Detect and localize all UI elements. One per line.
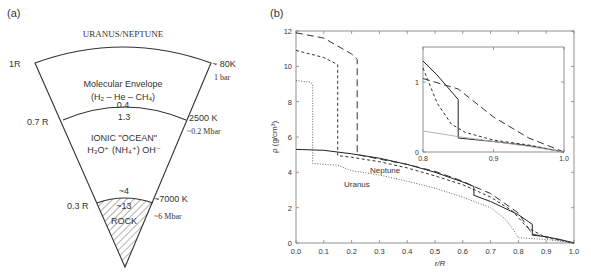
y-tick-label: 10 [284, 62, 292, 71]
radius-label-0-7R: 0.7 R [27, 117, 49, 127]
density-rock-top: ~13 [116, 201, 131, 211]
panel-a-planet-interior-diagram: (a) URANUS/NEPTUNE 1R 0.7 R 0.3 R Molecu… [7, 7, 236, 267]
pressure-0-3R: ~6 Mbar [154, 212, 182, 221]
pressure-surface: 1 bar [214, 73, 231, 82]
radius-label-0-3R: 0.3 R [67, 201, 89, 211]
x-tick-label: 0.9 [489, 155, 499, 162]
x-tick-label: 0.5 [430, 247, 440, 256]
layer-molecular-envelope: Molecular Envelope [83, 79, 162, 89]
pressure-0-7R: ~0.2 Mbar [187, 127, 221, 136]
y-tick-label: 6 [288, 133, 292, 142]
x-tick-label: 0.9 [541, 247, 551, 256]
x-tick-label: 0.3 [374, 247, 384, 256]
y-tick-label: 0 [288, 239, 292, 248]
layer-rock: ROCK [111, 216, 137, 226]
layer-ionic-composition: H₃O⁺ (NH₄⁺) OH⁻ [87, 145, 160, 155]
temperature-0-7R: 2500 K [189, 113, 218, 123]
panel-a-label: (a) [7, 7, 20, 19]
x-axis-label: r/R [435, 259, 446, 268]
y-tick-label: 2 [288, 204, 292, 213]
temperature-0-3R: ~7000 K [154, 194, 188, 204]
x-tick-label: 1.0 [569, 247, 579, 256]
radius-label-1R: 1R [9, 59, 21, 69]
x-tick-label: 0.8 [418, 155, 428, 162]
y-tick-label: 0 [415, 149, 419, 156]
y-tick-label: 8 [288, 98, 292, 107]
x-tick-label: 0.4 [402, 247, 412, 256]
x-tick-label: 0.6 [458, 247, 468, 256]
x-tick-label: 0.0 [291, 247, 301, 256]
x-tick-label: 0.1 [319, 247, 329, 256]
figure: (a) URANUS/NEPTUNE 1R 0.7 R 0.3 R Molecu… [0, 0, 591, 275]
x-tick-label: 1.0 [559, 155, 569, 162]
y-tick-label: 1 [415, 79, 419, 86]
layer-ionic-ocean: IONIC "OCEAN" [91, 133, 157, 143]
inset-plot-frame [423, 47, 564, 152]
x-tick-label: 0.2 [346, 247, 356, 256]
panel-b-density-chart: (b) 0.00.10.20.30.40.50.60.70.80.91.0024… [270, 7, 579, 268]
density-ocean-top: 1.3 [118, 112, 131, 122]
density-envelope-bottom: 0.4 [117, 100, 130, 110]
x-tick-label: 0.8 [513, 247, 523, 256]
diagram-title: URANUS/NEPTUNE [83, 29, 164, 39]
y-tick-label: 12 [284, 27, 292, 36]
y-tick-label: 4 [288, 168, 292, 177]
uranus-label: Uranus [344, 180, 370, 189]
x-tick-label: 0.7 [485, 247, 495, 256]
series-line [296, 149, 574, 243]
y-axis-label: ρ (g/cm³) [270, 121, 279, 153]
temperature-surface: ~ 80K [212, 59, 236, 69]
density-ocean-bottom: ~4 [119, 186, 129, 196]
panel-b-label: (b) [270, 7, 283, 19]
neptune-label: Neptune [370, 166, 401, 175]
